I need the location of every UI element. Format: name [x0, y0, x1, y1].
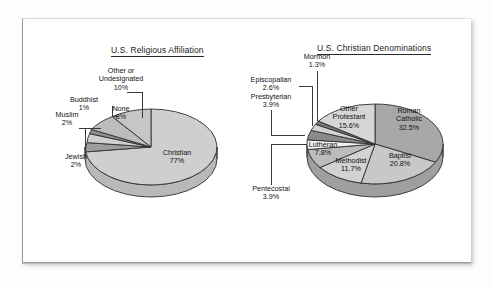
label-jewish: Jewish 2%	[51, 153, 101, 170]
label-christian-pct: 77%	[170, 156, 184, 165]
label-other-protestant: Other Protestant 15.6%	[319, 105, 379, 130]
leader-other-vertical	[142, 92, 143, 118]
label-jewish-pct: 2%	[71, 160, 81, 169]
label-none: None 8%	[101, 105, 141, 122]
label-baptist-pct: 20.8%	[390, 159, 410, 168]
label-episcopalian: Episcopalian 2.6%	[238, 76, 304, 93]
chart-us-christian-denominations: U.S. Christian Denominations	[247, 19, 471, 262]
label-muslim-pct: 2%	[62, 118, 72, 127]
label-methodist: Methodist 11.7%	[323, 157, 379, 174]
left-pie-graphic	[23, 19, 247, 262]
chart-us-religious-affiliation: U.S. Religious Affiliation	[23, 19, 247, 262]
label-none-pct: 8%	[116, 112, 126, 121]
label-other-undesignated: Other or Undesignated 10%	[81, 67, 161, 92]
label-presbyterian: Presbyterian 3.9%	[236, 93, 306, 110]
label-lutheran: Lutheran 7.8%	[297, 141, 349, 158]
leader-episcopalian-vertical	[312, 86, 313, 126]
label-roman-catholic: Roman Catholic 32.5%	[381, 107, 437, 132]
leader-jewish-horizontal	[85, 128, 99, 129]
label-other-pct: 10%	[114, 83, 128, 92]
right-pie-graphic	[247, 19, 471, 262]
label-pentecostal-pct: 3.9%	[263, 192, 279, 201]
label-muslim: Muslim 2%	[43, 111, 91, 128]
page-background: U.S. Religious Affiliation	[0, 0, 492, 288]
leader-presbyterian-horizontal	[271, 135, 305, 136]
label-roman-pct: 32.5%	[399, 123, 419, 132]
label-christian: Christian 77%	[151, 149, 203, 166]
leader-episcopalian-horizontal	[299, 86, 313, 87]
leader-mormon-vertical	[317, 71, 318, 121]
label-methodist-pct: 11.7%	[341, 164, 361, 173]
label-pentecostal: Pentecostal 3.9%	[238, 185, 304, 202]
label-lutheran-pct: 7.8%	[315, 148, 331, 157]
label-other-protestant-pct: 15.6%	[339, 121, 359, 130]
label-presbyterian-pct: 3.9%	[263, 100, 279, 109]
label-baptist: Baptist 20.8%	[375, 152, 425, 169]
label-mormon-pct: 1.3%	[309, 60, 325, 69]
label-mormon: Mormon 1.3%	[289, 53, 345, 70]
document-sheet: U.S. Religious Affiliation	[22, 18, 471, 262]
leader-presbyterian-vertical	[271, 110, 272, 136]
leader-other-horizontal	[127, 92, 143, 93]
leader-jewish-vertical	[85, 128, 86, 154]
leader-pentecostal-vertical	[271, 144, 272, 185]
